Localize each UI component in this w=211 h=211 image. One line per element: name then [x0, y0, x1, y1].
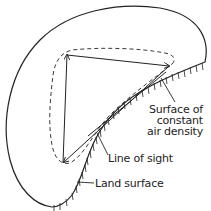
surface-label-line-3: air density — [147, 126, 203, 137]
surface-of-constant-air-density-label: Surface of constant air density — [147, 104, 203, 137]
diagram-canvas: Surface of constant air density Line of … — [0, 0, 211, 211]
line-of-sight-label: Line of sight — [108, 153, 173, 164]
land-surface-label: Land surface — [95, 178, 164, 189]
